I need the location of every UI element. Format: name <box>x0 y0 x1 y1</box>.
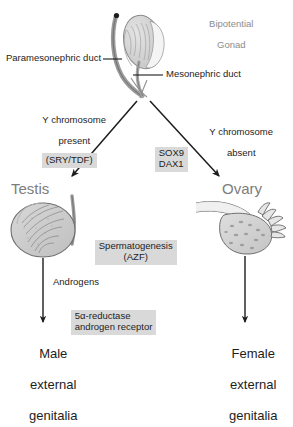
ovary-heading: Ovary <box>222 181 262 198</box>
sry-tdf-gene-label: (SRY/TDF) <box>42 153 97 167</box>
male-outcome-label: Male external genitalia <box>0 331 92 427</box>
mesonephric-duct-label: Mesonephric duct <box>166 69 241 80</box>
gonad-title-line2: Gonad <box>217 39 246 50</box>
gene-sox9: SOX9 <box>159 147 184 158</box>
spermatogenesis-box: Spermatogenesis(AZF) <box>77 222 177 283</box>
testis-heading: Testis <box>11 181 49 198</box>
spermatogenesis-line2: (AZF) <box>124 251 148 262</box>
paramesonephric-duct-label: Paramesonephric duct <box>6 53 101 64</box>
female-outcome-line1: Female <box>232 346 275 361</box>
gene-dax1: DAX1 <box>159 158 184 169</box>
spermatogenesis-label: Spermatogenesis(AZF) <box>95 240 177 265</box>
female-outcome-label: Female external genitalia <box>200 331 292 427</box>
spermatogenesis-line1: Spermatogenesis <box>99 240 173 251</box>
right-condition-label: Y chromosome absent <box>182 116 290 169</box>
right-condition-line2: absent <box>227 147 256 158</box>
male-outcome-line3: genitalia <box>29 408 77 423</box>
androgens-label: Androgens <box>53 277 99 288</box>
center-gene-box: SOX9DAX1 <box>137 129 188 190</box>
bipotential-gonad-title: Bipotential Gonad <box>176 8 276 61</box>
testis-icon <box>11 196 75 257</box>
androgen-box-line1: 5α-reductase <box>75 310 131 321</box>
gonad-title-line1: Bipotential <box>209 18 253 29</box>
male-outcome-line1: Male <box>39 346 67 361</box>
male-outcome-line2: external <box>30 377 76 392</box>
sry-tdf-gene-box: (SRY/TDF) <box>24 131 97 185</box>
ovary-icon <box>196 201 286 254</box>
right-condition-line1: Y chromosome <box>209 126 273 137</box>
female-outcome-line3: genitalia <box>229 408 277 423</box>
bipotential-gonad-icon <box>118 11 167 72</box>
female-outcome-line2: external <box>230 377 276 392</box>
left-condition-line1: Y chromosome <box>42 114 106 125</box>
